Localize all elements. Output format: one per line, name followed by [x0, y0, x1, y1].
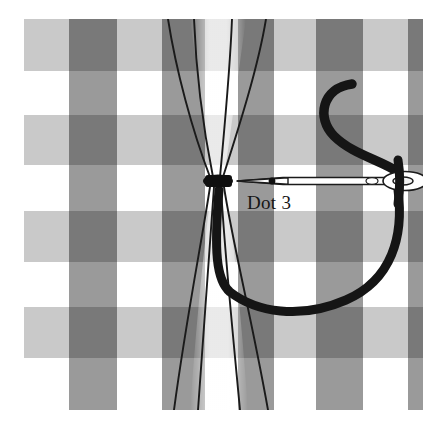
dot-label: Dot 3: [247, 192, 291, 213]
thread-knot: [203, 175, 233, 188]
illustration-canvas: Dot 3: [0, 0, 442, 435]
dot-marker: [269, 178, 276, 185]
thread-through-eye: [398, 160, 400, 204]
sewing-illustration-svg: Dot 3: [0, 0, 442, 435]
